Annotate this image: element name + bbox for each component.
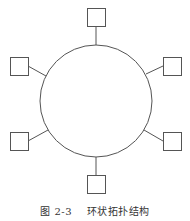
node-lower-left-link bbox=[28, 130, 48, 141]
ring-topology-diagram bbox=[0, 0, 190, 200]
figure-caption: 图 2-3 环状拓扑结构 bbox=[0, 203, 190, 218]
figure-title: 环状拓扑结构 bbox=[87, 206, 150, 217]
node-upper-left-link bbox=[28, 66, 46, 76]
node-lower-right-box bbox=[164, 133, 182, 151]
node-upper-right-link bbox=[146, 66, 163, 74]
ring-circle bbox=[40, 45, 152, 157]
node-upper-right-box bbox=[164, 58, 182, 76]
node-lower-left-box bbox=[11, 133, 29, 151]
node-lower-right-link bbox=[144, 130, 163, 141]
node-upper-left-box bbox=[11, 58, 29, 76]
ring-nodes bbox=[11, 9, 182, 194]
node-top-box bbox=[88, 9, 106, 27]
node-bottom-box bbox=[88, 176, 106, 194]
figure-number: 图 2-3 bbox=[40, 206, 72, 217]
caption-gap bbox=[72, 206, 87, 217]
